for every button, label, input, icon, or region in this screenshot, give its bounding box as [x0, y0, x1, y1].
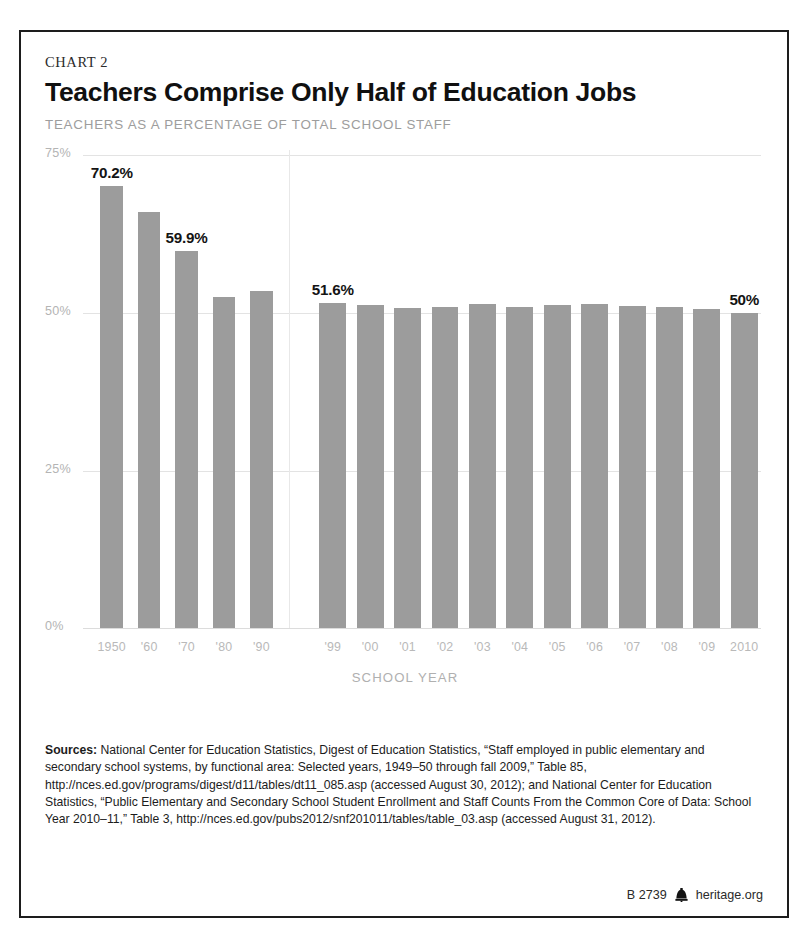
bar: [250, 291, 272, 628]
bar: [394, 308, 421, 628]
group-divider-line: [289, 150, 290, 628]
bar: [731, 313, 758, 628]
bar: [432, 307, 459, 629]
chart-baseline: [83, 628, 761, 629]
liberty-bell-icon: [675, 888, 688, 902]
bar-value-label: 59.9%: [157, 229, 217, 246]
site-label: heritage.org: [696, 888, 763, 902]
bar: [100, 186, 122, 629]
bar: [544, 305, 571, 629]
chart-subtitle: TEACHERS AS A PERCENTAGE OF TOTAL SCHOOL…: [45, 117, 765, 132]
bar: [693, 309, 720, 629]
bar: [506, 307, 533, 628]
bar-chart-plot: 0%25%50%75% 70.2%59.9%51.6%50% 1950'60'7…: [45, 138, 765, 668]
sources-text: National Center for Education Statistics…: [45, 743, 751, 826]
chart-card-inner: CHART 2 Teachers Comprise Only Half of E…: [21, 32, 787, 916]
x-axis-title: SCHOOL YEAR: [45, 670, 765, 685]
bar-value-label: 51.6%: [303, 281, 363, 298]
bar: [469, 304, 496, 628]
bar: [656, 307, 683, 629]
bar: [581, 304, 608, 629]
sources-note: Sources: National Center for Education S…: [45, 742, 763, 829]
chart-kicker: CHART 2: [45, 54, 765, 71]
chart-id: B 2739: [627, 888, 667, 902]
chart-card: CHART 2 Teachers Comprise Only Half of E…: [19, 30, 789, 918]
bar: [138, 212, 160, 628]
sources-label: Sources:: [45, 743, 97, 757]
bar: [213, 297, 235, 628]
x-axis-tick-label: 2010: [720, 640, 768, 654]
bar: [619, 306, 646, 628]
y-axis-tick-label: 50%: [45, 304, 79, 318]
y-axis-tick-label: 75%: [45, 146, 79, 160]
footer-badge: B 2739 heritage.org: [627, 888, 763, 902]
x-axis-tick-label: '90: [237, 640, 285, 654]
y-axis-tick-label: 0%: [45, 619, 79, 633]
bar: [357, 305, 384, 629]
y-axis-tick-label: 25%: [45, 462, 79, 476]
bar: [175, 251, 197, 629]
bar: [319, 303, 346, 628]
page-title: Teachers Comprise Only Half of Education…: [45, 77, 765, 107]
bar-value-label: 70.2%: [82, 164, 142, 181]
bar-value-label: 50%: [714, 291, 774, 308]
gridline-75: [83, 155, 761, 156]
